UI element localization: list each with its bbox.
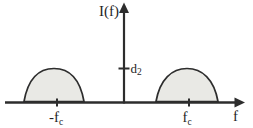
spectrum-plot-canvas: I(f) f d2 -fc fc xyxy=(0,0,253,128)
y-axis-arrowhead xyxy=(119,3,129,14)
neg-fc-label-subscript: c xyxy=(59,117,63,127)
left-spectral-lobe xyxy=(24,69,84,102)
neg-fc-label: -fc xyxy=(49,109,63,127)
spectrum-figure: I(f) f d2 -fc fc xyxy=(0,0,253,128)
x-axis-arrowhead xyxy=(235,98,246,108)
neg-fc-label-base: -f xyxy=(49,109,59,125)
y-axis-label: I(f) xyxy=(99,3,119,20)
fc-label: fc xyxy=(182,109,191,127)
right-spectral-lobe xyxy=(156,69,218,102)
x-axis-label: f xyxy=(233,108,238,124)
d2-label: d2 xyxy=(131,61,143,78)
d2-label-subscript: 2 xyxy=(137,67,142,77)
fc-label-subscript: c xyxy=(187,117,191,127)
